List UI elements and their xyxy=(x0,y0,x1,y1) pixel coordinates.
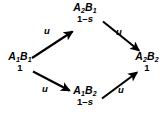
node-a1b1-fitness: 1 xyxy=(0,63,40,73)
node-a1b2: A1B2 1–s xyxy=(64,85,106,107)
node-a1b2-genotype: A1B2 xyxy=(64,85,106,96)
node-a2b1-genotype: A2B1 xyxy=(64,2,106,13)
node-a2b2: A2B2 1 xyxy=(126,51,167,73)
edge-label-a1b1-to-a1b2: u xyxy=(42,83,48,94)
node-a1b1-genotype: A1B1 xyxy=(0,51,40,62)
node-a1b2-fitness: 1–s xyxy=(64,97,106,107)
edge-label-a1b1-to-a2b1: u xyxy=(44,25,50,36)
node-a2b2-genotype: A2B2 xyxy=(126,51,167,62)
node-a2b2-fitness: 1 xyxy=(126,63,167,73)
node-a1b1: A1B1 1 xyxy=(0,51,40,73)
edge-label-a2b1-to-a2b2: u xyxy=(116,26,122,37)
mutation-pathway-diagram: A1B1 1 A2B1 1–s A1B2 1–s A2B2 1 u u u u xyxy=(0,0,167,118)
edge-label-a1b2-to-a2b2: u xyxy=(118,84,124,95)
node-a2b1: A2B1 1–s xyxy=(64,2,106,24)
node-a2b1-fitness: 1–s xyxy=(64,14,106,24)
